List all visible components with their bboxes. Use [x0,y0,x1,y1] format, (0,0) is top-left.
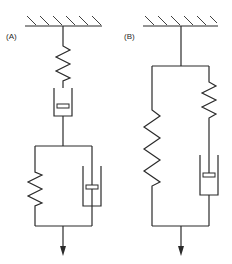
diagram-canvas: (A) [0,0,232,264]
arrow-down-icon [60,246,66,256]
hatch-mark [210,16,217,23]
hatch-mark [40,16,49,25]
model-a-load-arrow [60,226,66,256]
model-a-label: (A) [6,32,17,41]
model-b-label: (B) [124,32,135,41]
model-a-fixed-support [25,16,102,26]
dashpot-piston [203,173,215,177]
model-a-series-dashpot [54,88,72,146]
model-b-load-arrow [178,226,184,256]
model-a-kelvin-element [28,146,101,226]
hatch-mark [79,16,88,25]
model-b: (B) [124,16,218,256]
hatch-mark [171,16,180,25]
hatch-mark [92,16,101,25]
dashpot-cylinder [54,88,72,116]
spring-icon [144,66,160,226]
hatch-mark [66,16,75,25]
spring-icon [202,66,216,150]
model-a: (A) [6,16,102,256]
hatch-mark [27,16,36,25]
hatch-mark [145,16,154,25]
hatch-mark [184,16,193,25]
spring-icon [56,26,70,88]
spring-icon [28,146,42,226]
hatch-mark [53,16,62,25]
model-b-maxwell-element [200,66,218,226]
dashpot-piston [86,185,98,189]
hatch-mark [197,16,206,25]
hatch-mark [158,16,167,25]
model-b-fixed-support [143,16,218,26]
model-a-series-spring [56,26,70,88]
model-b-parallel-spring [144,66,160,226]
dashpot-piston [57,104,69,108]
arrow-down-icon [178,246,184,256]
